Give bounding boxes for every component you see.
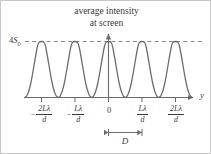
intensity-diagram: average intensity at screen bbox=[0, 0, 211, 154]
tick-label-neg-2-numerator: 2Lλ bbox=[36, 104, 52, 113]
x-axis-ticks bbox=[42, 98, 176, 103]
tick-label-pos-2-numerator: 2Lλ bbox=[168, 104, 184, 113]
peak-value-subscript: 0 bbox=[18, 41, 21, 47]
tick-label-pos-2-denominator: d bbox=[168, 115, 184, 124]
x-axis-label: y bbox=[200, 91, 204, 100]
plot-area bbox=[1, 1, 211, 154]
tick-label-pos-1-numerator: Lλ bbox=[137, 104, 149, 113]
spacing-label: D bbox=[1, 137, 211, 146]
peak-value-label: 4S0 bbox=[9, 36, 21, 47]
tick-label-pos-1-denominator: d bbox=[137, 115, 149, 124]
tick-label-neg-2-denominator: d bbox=[36, 115, 52, 124]
tick-label-neg-1-denominator: d bbox=[72, 115, 84, 124]
tick-label-pos-2: 2Lλd bbox=[159, 104, 193, 124]
tick-label-neg-1: −Lλd bbox=[55, 104, 96, 124]
tick-label-pos-1: Lλd bbox=[127, 104, 158, 124]
tick-label-zero: 0 bbox=[99, 105, 119, 115]
tick-label-neg-1-numerator: Lλ bbox=[72, 104, 84, 113]
